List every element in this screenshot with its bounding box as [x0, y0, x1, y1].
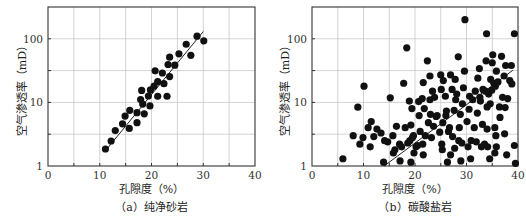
data-point [476, 65, 483, 72]
data-point [439, 119, 446, 126]
data-point [152, 67, 159, 74]
data-point [146, 102, 153, 109]
y-tick-label: 10 [294, 96, 307, 108]
data-point [102, 145, 109, 152]
data-point [491, 124, 498, 131]
data-point [398, 143, 405, 150]
y-tick-label: 1 [36, 160, 43, 172]
data-point [410, 132, 417, 139]
data-point [460, 84, 467, 91]
panel-b-carbonate: 010203040110100 空气渗透率（mD） 孔隙度（%） （b）碳酸盐岩 [263, 0, 526, 220]
data-point [469, 96, 476, 103]
data-point [183, 41, 190, 48]
data-point [493, 68, 500, 75]
data-point [449, 133, 456, 140]
data-point [429, 88, 436, 95]
data-point [438, 86, 445, 93]
data-point [456, 124, 463, 131]
data-point [389, 132, 396, 139]
data-point [451, 145, 458, 152]
data-point [403, 44, 410, 51]
data-point [396, 157, 403, 164]
data-point [457, 111, 464, 118]
data-point [359, 134, 366, 141]
data-point [175, 50, 182, 57]
data-point [406, 97, 413, 104]
data-point [419, 95, 426, 102]
data-point [463, 118, 470, 125]
data-point [426, 72, 433, 79]
data-point [431, 94, 438, 101]
data-point [477, 97, 484, 104]
data-point [119, 120, 126, 127]
data-point [473, 138, 480, 145]
data-point [354, 104, 361, 111]
data-point [407, 159, 414, 166]
data-point [458, 139, 465, 146]
data-point [430, 123, 437, 130]
data-point [154, 93, 161, 100]
data-point [368, 118, 375, 125]
data-point [471, 124, 478, 131]
data-point [465, 106, 472, 113]
data-point [489, 51, 496, 58]
data-point [482, 57, 489, 64]
data-point [504, 95, 511, 102]
y-axis-label-a: 空气渗透率（mD） [13, 33, 29, 143]
data-point [126, 107, 133, 114]
x-axis-label-a: 孔隙度（%） [48, 180, 255, 196]
data-point [160, 80, 167, 87]
data-point [486, 155, 493, 162]
data-point [339, 155, 346, 162]
data-point [187, 52, 194, 59]
data-point [422, 132, 429, 139]
data-point [451, 107, 458, 114]
data-point [498, 53, 505, 60]
data-point [380, 159, 387, 166]
data-point [420, 151, 427, 158]
data-point [442, 93, 449, 100]
data-point [483, 30, 490, 37]
data-point [452, 76, 459, 83]
data-point [126, 125, 133, 132]
data-point [472, 88, 479, 95]
data-point [489, 59, 496, 66]
data-point [400, 80, 407, 87]
data-point [370, 133, 377, 140]
y-axis-label-b: 空气渗透率（mD） [276, 33, 292, 143]
data-point [193, 33, 200, 40]
data-point [474, 75, 481, 82]
data-point [459, 100, 466, 107]
data-point [108, 137, 115, 144]
trend-line [105, 32, 203, 152]
data-point [444, 159, 451, 166]
data-point [434, 112, 441, 119]
data-point [407, 121, 414, 128]
data-point [446, 124, 453, 131]
data-point [508, 62, 515, 69]
data-point [393, 123, 400, 130]
data-point [391, 146, 398, 153]
data-point [387, 94, 394, 101]
data-point [166, 54, 173, 61]
data-point [511, 30, 518, 37]
data-point [461, 68, 468, 75]
data-point [360, 83, 367, 90]
data-point [350, 132, 357, 139]
data-point [484, 143, 491, 150]
data-point [511, 142, 518, 149]
data-point [154, 78, 161, 85]
data-point [457, 157, 464, 164]
data-point [419, 141, 426, 148]
data-point [436, 129, 443, 136]
data-point [464, 143, 471, 150]
data-point [503, 151, 510, 158]
data-point [133, 119, 140, 126]
data-point [171, 62, 178, 69]
data-point [453, 91, 460, 98]
caption-b: （b）碳酸盐岩 [312, 198, 518, 214]
data-points [102, 33, 208, 153]
data-point [139, 101, 146, 108]
data-point [166, 73, 173, 80]
data-point [502, 104, 509, 111]
